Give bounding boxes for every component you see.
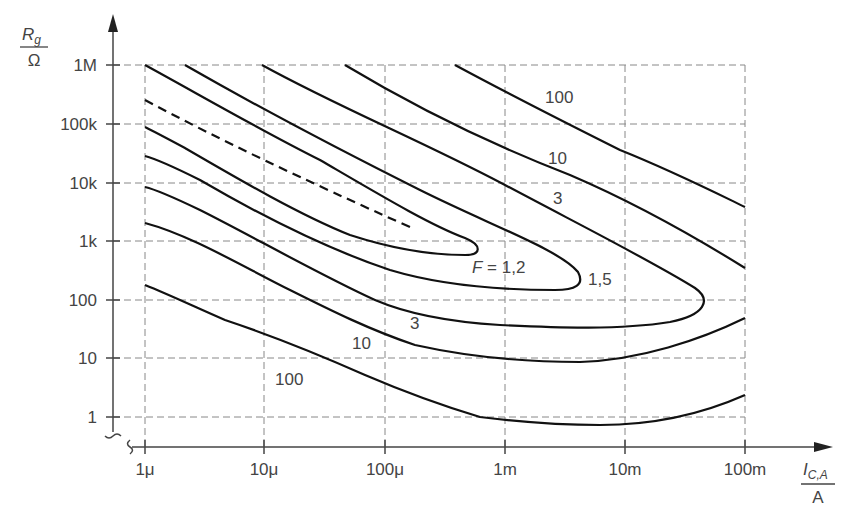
y-tick-10: 10 [78,349,97,368]
x-tick-labels: 1μ 10μ 100μ 1m 10m 100m [135,460,766,479]
label-f-10-upper: 10 [548,149,567,168]
label-f-3-lower: 3 [410,314,419,333]
x-tick-1u: 1μ [135,460,154,479]
label-f-1.2: F = 1,2 [472,258,525,277]
curve-labels: F = 1,2 1,5 3 10 100 100 10 3 [275,88,612,389]
svg-text:Rg: Rg [22,25,41,47]
x-axis-break-icon [128,440,133,454]
curves [145,65,745,425]
y-axis-title: Rg Ω [20,25,48,70]
x-axis-title: IC,A A [801,460,835,507]
y-axis-break-icon [105,434,121,438]
y-tick-10k: 10k [70,174,98,193]
x-axis-arrow-icon [814,442,833,452]
x-tick-100u: 100μ [366,460,404,479]
x-tick-10u: 10μ [250,460,279,479]
label-f-100-upper: 100 [545,88,573,107]
label-f-3-upper: 3 [553,189,562,208]
label-f-100-lower: 100 [275,370,303,389]
svg-text:Ω: Ω [28,51,41,70]
axes [105,14,833,454]
y-tick-1: 1 [88,408,97,427]
curve-f-10 [145,65,745,362]
curve-f-1.2 [145,65,478,255]
x-tick-100m: 100m [724,460,767,479]
curve-f-1.5 [145,65,580,290]
label-f-1.5: 1,5 [588,270,612,289]
x-tick-1m: 1m [493,460,517,479]
y-tick-100: 100 [69,291,97,310]
grid [113,65,745,447]
y-axis-arrow-icon [108,14,118,32]
y-tick-1M: 1M [73,56,97,75]
label-f-10-lower: 10 [352,334,371,353]
y-tick-labels: 1M 100k 10k 1k 100 10 1 [60,56,97,427]
y-tick-1k: 1k [79,232,97,251]
y-tick-100k: 100k [60,115,97,134]
x-tick-10m: 10m [608,460,641,479]
svg-text:IC,A: IC,A [803,460,828,482]
svg-text:A: A [812,488,824,507]
noise-figure-chart: 1M 100k 10k 1k 100 10 1 1μ 10μ 100μ 1m 1… [0,0,858,528]
